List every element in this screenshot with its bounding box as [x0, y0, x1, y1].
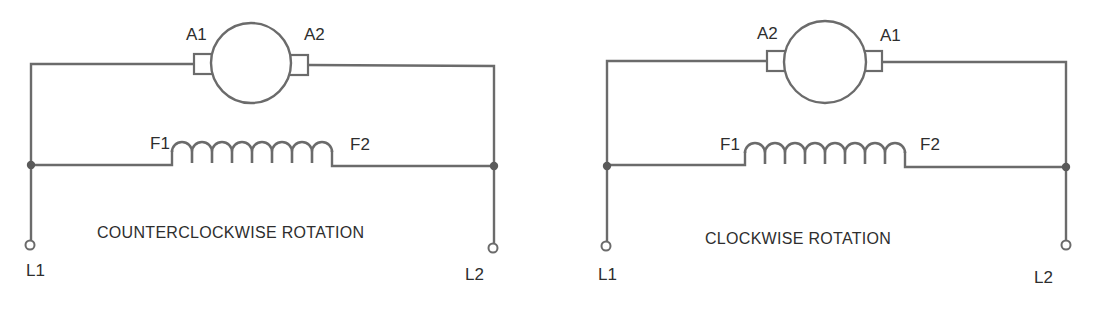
armature-wire-left [607, 61, 767, 242]
rotation-caption: COUNTERCLOCKWISE ROTATION [97, 224, 364, 241]
terminal-l2-icon [489, 244, 498, 253]
field-right-label: F2 [920, 135, 940, 154]
armature-wire-right [882, 62, 1066, 241]
line-right-label: L2 [1034, 268, 1053, 287]
junction-dot-right [490, 162, 498, 170]
field-coil-icon [172, 142, 332, 163]
terminal-l1-icon [602, 242, 611, 251]
field-wire-right [905, 153, 1066, 167]
field-left-label: F1 [150, 134, 170, 153]
line-right-label: L2 [465, 265, 484, 284]
junction-dot-right [1062, 163, 1070, 171]
armature-right-label: A1 [880, 26, 901, 45]
field-wire-left [31, 152, 172, 165]
terminal-l2-icon [1062, 241, 1071, 250]
diagram-clockwise: A2 A1 F1 F2 L1 L2 CLOCKWISE ROTATION [598, 21, 1071, 287]
line-left-label: L1 [598, 265, 617, 284]
armature-motor-icon [784, 21, 866, 103]
armature-motor-icon [211, 23, 291, 103]
terminal-l1-icon [26, 241, 35, 250]
field-left-label: F1 [720, 135, 740, 154]
diagram-counterclockwise: A1 A2 F1 F2 L1 L2 COUNTERCLOCKWISE ROTAT… [26, 23, 499, 284]
junction-dot-left [27, 161, 35, 169]
armature-wire-right [308, 65, 494, 243]
armature-left-label: A2 [757, 24, 778, 43]
field-coil-icon [745, 143, 905, 164]
field-wire-right [332, 152, 494, 166]
armature-right-label: A2 [304, 25, 325, 44]
field-wire-left [607, 153, 745, 165]
line-left-label: L1 [26, 261, 45, 280]
armature-left-label: A1 [186, 25, 207, 44]
rotation-caption: CLOCKWISE ROTATION [705, 230, 891, 247]
wiring-diagrams: A1 A2 F1 F2 L1 L2 COUNTERCLOCKWISE ROTAT… [0, 0, 1097, 310]
field-right-label: F2 [350, 135, 370, 154]
junction-dot-left [603, 162, 611, 170]
